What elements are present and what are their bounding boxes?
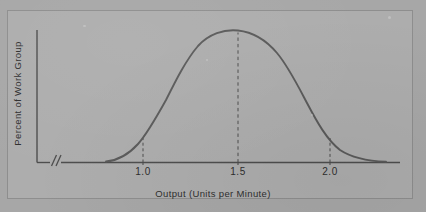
x-tick-label-1-5: 1.5 <box>218 166 258 177</box>
axis-break-icon <box>52 155 62 166</box>
x-tick-label-2-0: 2.0 <box>310 166 350 177</box>
bell-curve-chart <box>0 0 426 212</box>
x-tick-label-1-0: 1.0 <box>123 166 163 177</box>
figure-root: Percent of Work Group 1.0 1.5 2.0 Output… <box>0 0 426 212</box>
y-axis-label: Percent of Work Group <box>12 29 23 159</box>
bell-curve-path <box>106 30 386 162</box>
x-axis-label: Output (Units per Minute) <box>0 188 426 199</box>
